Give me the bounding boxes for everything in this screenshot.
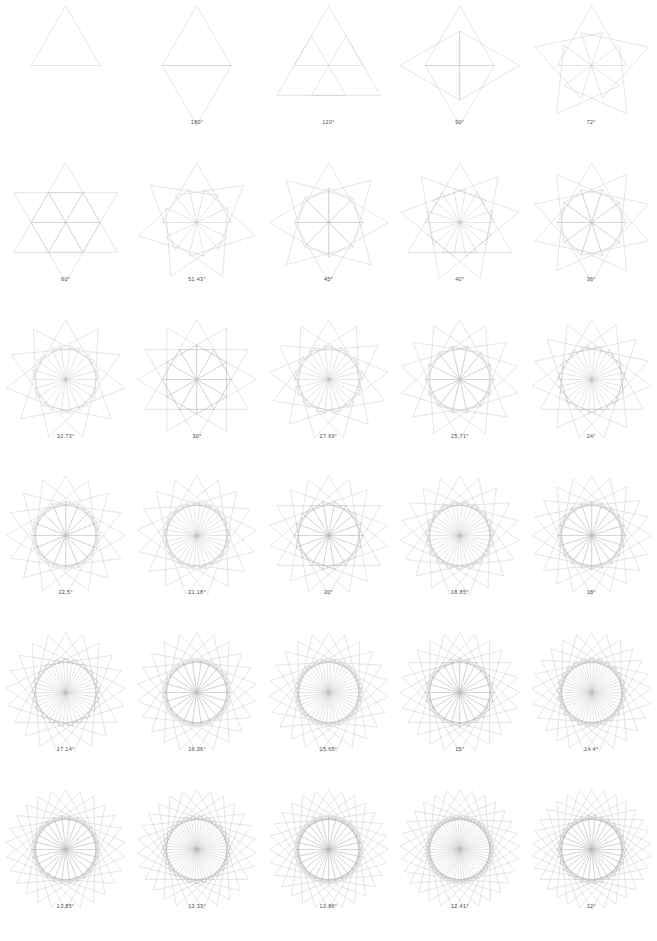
rosette-figure (131, 627, 262, 758)
triangle-rotation-drawing (526, 784, 657, 915)
rosette-angle-label: 51.43° (188, 277, 206, 282)
rosette-figure (263, 784, 394, 915)
rosette-angle-label: 32.73° (57, 434, 75, 439)
rosette-cell: 24° (526, 314, 657, 471)
rosette-cell: 12.86° (263, 784, 394, 941)
rosette-figure (0, 314, 131, 445)
rosette-figure (526, 470, 657, 601)
rosette-cell: 12.41° (394, 784, 525, 941)
rosette-angle-label: 90° (455, 120, 464, 125)
rosette-cell: 15° (394, 627, 525, 784)
rosette-cell: 18.85° (394, 470, 525, 627)
rosette-cell: 15.65° (263, 627, 394, 784)
rosette-cell: 51.43° (131, 157, 262, 314)
rosette-angle-label: 20° (324, 590, 333, 595)
rosette-cell (0, 0, 131, 157)
triangle-rotation-drawing (0, 157, 131, 288)
rosette-angle-label: 40° (455, 277, 464, 282)
triangle-rotation-drawing (131, 157, 262, 288)
rosette-cell: 17.14° (0, 627, 131, 784)
rosette-figure (131, 784, 262, 915)
rosette-angle-label: 24° (587, 434, 596, 439)
triangle-rotation-drawing (394, 784, 525, 915)
rosette-figure (263, 470, 394, 601)
rosette-cell: 36° (526, 157, 657, 314)
rosette-angle-label: 36° (587, 277, 596, 282)
rosette-cell: 16.36° (131, 627, 262, 784)
rosette-cell: 180° (131, 0, 262, 157)
rosette-figure (394, 784, 525, 915)
triangle-rotation-drawing (0, 784, 131, 915)
rosette-angle-label: 60° (61, 277, 70, 282)
rosette-cell: 14.4° (526, 627, 657, 784)
triangle-rotation-drawing (131, 784, 262, 915)
rosette-figure (263, 157, 394, 288)
rosette-angle-label: 12° (587, 904, 596, 909)
triangle-rotation-drawing (394, 470, 525, 601)
rosette-figure (131, 314, 262, 445)
rosette-cell: 22.5° (0, 470, 131, 627)
triangle-rotation-drawing (263, 0, 394, 131)
rosette-figure (131, 157, 262, 288)
rosette-figure (0, 627, 131, 758)
rosette-angle-label: 12.41° (451, 904, 469, 909)
triangle-rotation-drawing (263, 314, 394, 445)
rosette-figure (263, 314, 394, 445)
rosette-angle-label: 13.33° (188, 904, 206, 909)
rosette-cell: 20° (263, 470, 394, 627)
triangle-rotation-drawing (0, 0, 131, 131)
rosette-figure (263, 0, 394, 131)
rosette-figure (0, 0, 131, 131)
rosette-figure (0, 157, 131, 288)
rosette-angle-label: 18° (587, 590, 596, 595)
triangle-rotation-drawing (394, 0, 525, 131)
rosette-figure (526, 157, 657, 288)
rosette-cell: 120° (263, 0, 394, 157)
rosette-figure (526, 784, 657, 915)
rosette-cell: 13.33° (131, 784, 262, 941)
rosette-angle-label: 21.18° (188, 590, 206, 595)
rosette-cell: 72° (526, 0, 657, 157)
rosette-cell: 18° (526, 470, 657, 627)
triangle-rotation-drawing (131, 0, 262, 131)
rosette-angle-label: 16.36° (188, 747, 206, 752)
rosette-figure (526, 627, 657, 758)
rosette-angle-label: 30° (192, 434, 201, 439)
rosette-figure (263, 627, 394, 758)
triangle-rotation-drawing (263, 470, 394, 601)
triangle-rotation-drawing (263, 627, 394, 758)
rosette-angle-label: 17.14° (57, 747, 75, 752)
triangle-rotation-drawing (394, 314, 525, 445)
triangle-rotation-drawing (263, 157, 394, 288)
rosette-angle-label: 13.85° (57, 904, 75, 909)
rosette-cell: 40° (394, 157, 525, 314)
rosette-angle-label: 45° (324, 277, 333, 282)
rosette-cell: 27.69° (263, 314, 394, 471)
rosette-cell: 12° (526, 784, 657, 941)
triangle-rotation-drawing (526, 157, 657, 288)
rosette-angle-label: 15.65° (320, 747, 338, 752)
triangle-rotation-drawing (263, 784, 394, 915)
rosette-cell: 32.73° (0, 314, 131, 471)
rosette-cell: 25.71° (394, 314, 525, 471)
rosette-angle-label: 180° (191, 120, 204, 125)
triangle-rotation-drawing (526, 470, 657, 601)
rosette-figure (394, 470, 525, 601)
triangle-rotation-drawing (131, 314, 262, 445)
triangle-rotation-drawing (0, 627, 131, 758)
rosette-angle-label: 15° (455, 747, 464, 752)
rosette-cell: 60° (0, 157, 131, 314)
rosette-cell: 13.85° (0, 784, 131, 941)
rosette-angle-label: 14.4° (584, 747, 598, 752)
rosette-figure (0, 784, 131, 915)
rosette-figure (394, 157, 525, 288)
rosette-figure (0, 470, 131, 601)
rosette-angle-label: 25.71° (451, 434, 469, 439)
rosette-cell: 21.18° (131, 470, 262, 627)
rosette-cell: 90° (394, 0, 525, 157)
triangle-rotation-drawing (131, 470, 262, 601)
triangle-rotation-drawing (394, 157, 525, 288)
rosette-angle-label: 120° (322, 120, 335, 125)
rosette-figure (526, 314, 657, 445)
rosette-angle-label: 12.86° (320, 904, 338, 909)
